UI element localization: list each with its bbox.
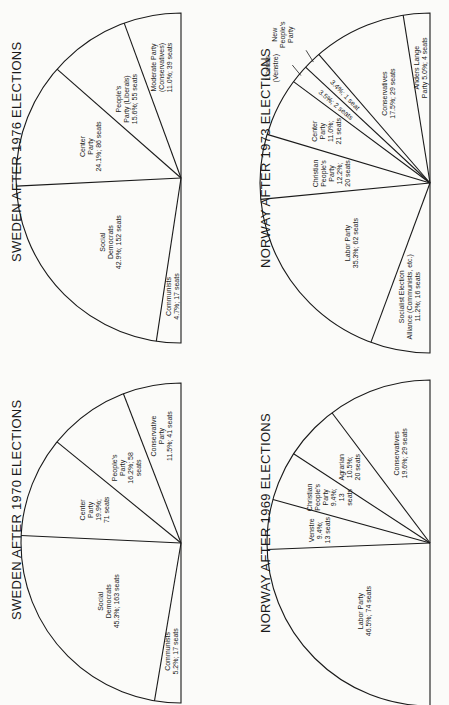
slice-label: Agrarian10.5%;20 seats [338,454,361,481]
slice-label: Venstre9.4%;13 seats [308,517,331,544]
slice-label: Conservatives19.6%; 29 seats [393,428,408,479]
slice-label: Labor Party46.5%; 74 seats [357,586,372,637]
slice-divider [267,543,430,549]
semicircle-pie: Labor Party46.5%; 74 seatsVenstre9.4%;13… [0,0,449,705]
chart-norway-1969: NORWAY AFTER 1969 ELECTIONS Labor Party4… [0,0,449,705]
